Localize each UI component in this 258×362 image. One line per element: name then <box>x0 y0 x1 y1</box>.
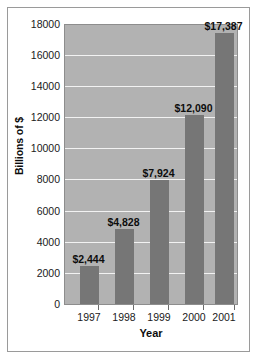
x-tick-label-1997: 1997 <box>69 311 109 323</box>
gridline <box>65 148 237 149</box>
bar-value-label-1997: $2,444 <box>60 253 118 265</box>
y-tick-label: 8000 <box>4 174 64 185</box>
x-tick-label-1999: 1999 <box>139 311 179 323</box>
bar-2001[interactable] <box>215 33 234 304</box>
x-axis-title: Year <box>64 327 238 339</box>
gridline <box>65 117 237 118</box>
y-tick-label: 14000 <box>4 81 64 92</box>
y-tick-label: 10000 <box>4 143 64 154</box>
bar-1997[interactable] <box>80 266 99 304</box>
x-tick-mark <box>234 305 235 310</box>
y-tick-label: 12000 <box>4 112 64 123</box>
x-tick-label-1998: 1998 <box>104 311 144 323</box>
y-tick-label: 6000 <box>4 206 64 217</box>
bar-1999[interactable] <box>150 180 169 304</box>
x-tick-mark <box>203 305 204 310</box>
bar-value-label-1999: $7,924 <box>130 167 188 179</box>
gridline <box>65 55 237 56</box>
x-tick-mark <box>133 305 134 310</box>
y-tick-label: 16000 <box>4 50 64 61</box>
x-tick-mark <box>98 305 99 310</box>
bar-value-label-2000: $12,090 <box>165 102 223 114</box>
x-tick-label-2001: 2001 <box>204 311 244 323</box>
bar-value-label-1998: $4,828 <box>95 216 153 228</box>
bar-1998[interactable] <box>115 229 134 304</box>
y-tick-label: 0 <box>4 299 64 310</box>
y-axis: 18000 16000 14000 12000 10000 8000 6000 … <box>0 0 64 362</box>
y-tick-label: 4000 <box>4 237 64 248</box>
gridline <box>65 86 237 87</box>
x-tick-mark <box>168 305 169 310</box>
bar-2000[interactable] <box>185 115 204 304</box>
bar-chart-figure: Billions of $ 18000 16000 14000 12000 10… <box>0 0 258 362</box>
bar-value-label-2001: $17,387 <box>195 20 253 32</box>
y-tick-label: 18000 <box>4 19 64 30</box>
y-tick-label: 2000 <box>4 268 64 279</box>
